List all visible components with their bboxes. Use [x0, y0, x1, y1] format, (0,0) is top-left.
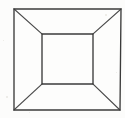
- perspective-box-drawing: Perspective box line drawing One-point p…: [0, 0, 125, 118]
- figure-canvas: Perspective box line drawing One-point p…: [0, 0, 125, 118]
